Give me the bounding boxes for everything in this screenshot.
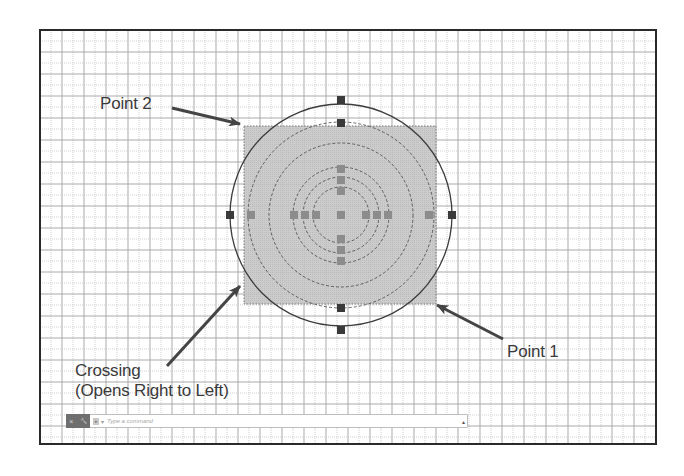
grip-handle[interactable]: [337, 176, 345, 184]
command-input[interactable]: [104, 415, 459, 427]
point-2-label: Point 2: [100, 94, 152, 114]
command-line[interactable]: × 🔧 ▸ ▾ ▴: [66, 414, 468, 428]
grip-handle[interactable]: [337, 165, 345, 173]
grip-handle[interactable]: [337, 246, 345, 254]
grip-handle[interactable]: [362, 211, 370, 219]
grip-handle-quadrant[interactable]: [337, 96, 345, 104]
crossing-subtitle: (Opens Right to Left): [75, 381, 229, 401]
model-space-viewport[interactable]: [0, 0, 684, 476]
grip-handle[interactable]: [337, 187, 345, 195]
crossing-label: Crossing (Opens Right to Left): [75, 361, 229, 401]
grip-handle[interactable]: [247, 211, 255, 219]
drawing-canvas[interactable]: Point 2 Point 1 Crossing (Opens Right to…: [0, 0, 684, 476]
grip-handle[interactable]: [312, 211, 320, 219]
grip-handle[interactable]: [337, 235, 345, 243]
grip-handle-quadrant[interactable]: [448, 211, 456, 219]
grip-handle[interactable]: [425, 211, 433, 219]
crossing-arrow: [167, 286, 240, 366]
point-2-arrow: [172, 108, 240, 124]
wrench-icon[interactable]: 🔧: [80, 418, 87, 425]
grip-handle-quadrant[interactable]: [337, 304, 345, 312]
crossing-title: Crossing: [75, 361, 229, 381]
grip-handle[interactable]: [337, 211, 345, 219]
grip-handle-quadrant[interactable]: [337, 326, 345, 334]
command-line-buttons: × 🔧: [66, 414, 90, 428]
grip-handle-quadrant[interactable]: [337, 119, 345, 127]
grip-handle[interactable]: [384, 211, 392, 219]
grip-handle[interactable]: [290, 211, 298, 219]
grip-handle[interactable]: [337, 257, 345, 265]
grip-handle-quadrant[interactable]: [226, 211, 234, 219]
close-icon[interactable]: ×: [69, 418, 73, 425]
point-1-label: Point 1: [507, 342, 559, 362]
command-prompt-icon[interactable]: ▸: [93, 418, 99, 425]
grip-handle[interactable]: [373, 211, 381, 219]
command-history-dropdown-icon[interactable]: ▴: [459, 418, 467, 425]
grip-handle[interactable]: [301, 211, 309, 219]
